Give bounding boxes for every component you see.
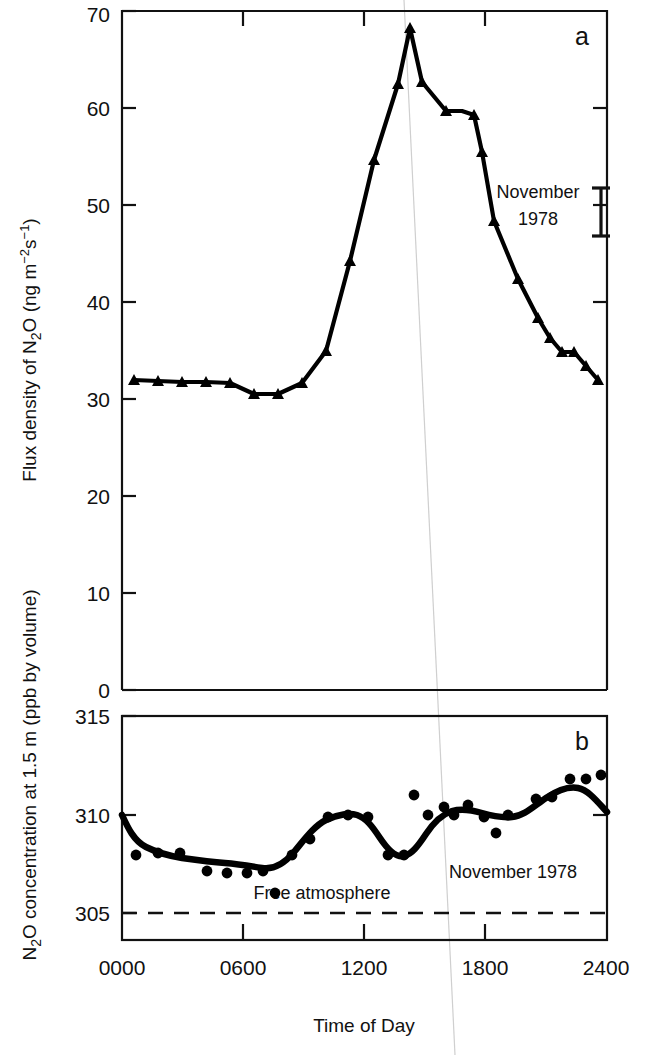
- panel-a: 0 10 20 30 40 50 60 70 a November 1978: [17, 3, 610, 702]
- figure-svg: 0 10 20 30 40 50 60 70 a November 1978: [0, 0, 645, 1055]
- panel-b-ylabel-part2: O concentration at 1.5 m (ppb by volume): [19, 589, 40, 939]
- panel-a-ytick-40: 40: [87, 291, 110, 314]
- panel-b-ylabel: N2O concentration at 1.5 m (ppb by volum…: [19, 589, 44, 960]
- panel-b-frame: [122, 716, 607, 940]
- xtick-0600: 0600: [220, 956, 267, 979]
- x-axis-title: Time of Day: [313, 1015, 415, 1036]
- panel-b-ylabel-sub1: 2: [28, 939, 44, 947]
- panel-a-letter: a: [575, 22, 589, 50]
- xtick-2400: 2400: [583, 956, 630, 979]
- panel-a-ylabel-part2: O (ng m: [19, 264, 40, 333]
- panel-b-letter: b: [575, 727, 589, 755]
- panel-b-ylabel-part1: N: [19, 947, 40, 961]
- panel-a-ylabel-part4: ): [19, 218, 40, 224]
- panel-a-ytick-30: 30: [87, 388, 110, 411]
- xtick-0000: 0000: [99, 956, 146, 979]
- panel-a-ytick-0: 0: [98, 679, 110, 702]
- panel-b-y-tick-labels: 315 310 305: [75, 705, 110, 925]
- panel-a-top-ticks: [243, 11, 485, 26]
- figure-container: 0 10 20 30 40 50 60 70 a November 1978: [0, 0, 645, 1055]
- panel-b-annotation: November 1978: [449, 862, 577, 882]
- panel-a-y-tick-labels: 0 10 20 30 40 50 60 70: [87, 3, 110, 702]
- panel-a-annotation-line2: 1978: [518, 209, 558, 229]
- panel-a-ylabel: Flux density of N2O (ng m−2s−1): [17, 218, 44, 481]
- panel-b-ytick-305: 305: [75, 902, 110, 925]
- scan-artifact-line: [404, 0, 455, 1055]
- xtick-1200: 1200: [341, 956, 388, 979]
- panel-a-ytick-10: 10: [87, 582, 110, 605]
- panel-a-ylabel-part3: s: [19, 239, 40, 249]
- panel-a-ylabel-sup1: −2: [17, 249, 32, 264]
- svg-text:Flux density of N2O (ng m−2s−1: Flux density of N2O (ng m−2s−1): [17, 218, 44, 481]
- panel-a-ytick-60: 60: [87, 97, 110, 120]
- panel-a-ytick-20: 20: [87, 485, 110, 508]
- panel-a-ylabel-part1: Flux density of N: [19, 340, 40, 482]
- panel-a-annotation: November 1978: [496, 182, 579, 229]
- panel-b-ytick-315: 315: [75, 705, 110, 728]
- panel-a-ylabel-sub1: 2: [28, 332, 44, 340]
- panel-a-frame: [122, 11, 607, 690]
- svg-text:N2O concentration at 1.5 m (pp: N2O concentration at 1.5 m (ppb by volum…: [19, 589, 44, 960]
- panel-a-ylabel-sup2: −1: [17, 225, 32, 240]
- xtick-1800: 1800: [462, 956, 509, 979]
- panel-b: 315 310 305 b Free atmosphere November 1…: [19, 589, 607, 960]
- panel-a-annotation-line1: November: [496, 182, 579, 202]
- panel-a-ytick-70: 70: [87, 3, 110, 26]
- panel-a-y-ticks: [122, 11, 136, 690]
- x-tick-labels: 0000 0600 1200 1800 2400: [99, 956, 630, 979]
- panel-a-ytick-50: 50: [87, 194, 110, 217]
- panel-b-ytick-310: 310: [75, 804, 110, 827]
